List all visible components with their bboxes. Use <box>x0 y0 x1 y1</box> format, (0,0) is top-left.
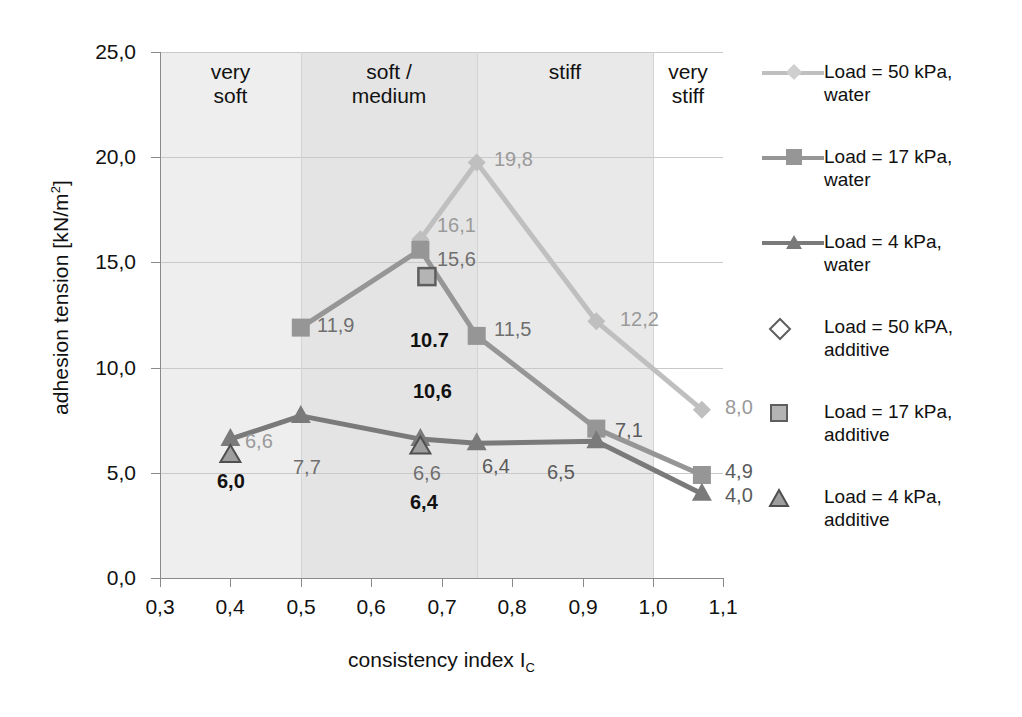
data-label-15-6: 15,6 <box>437 248 476 271</box>
y-tick-20 <box>151 157 160 158</box>
marker-square <box>411 241 429 259</box>
triangle-line-marker-icon <box>762 230 824 254</box>
data-label-6-0-additive: 6,0 <box>217 470 245 493</box>
legend-label: Load = 4 kPa, additive <box>824 485 942 531</box>
y-axis-title-text: adhesion tension [kN/m <box>49 193 72 415</box>
legend-item-17kpa-additive[interactable]: Load = 17 kPa, additive <box>762 400 1020 446</box>
square-line-marker-icon <box>762 145 824 169</box>
x-tick-label-1-1: 1,1 <box>693 595 753 619</box>
x-tick-0-3 <box>160 578 161 587</box>
y-tick-label-5: 5,0 <box>76 461 136 485</box>
diamond-line-marker-icon <box>762 60 824 84</box>
x-tick-label-0-5: 0,5 <box>271 595 331 619</box>
x-tick-label-0-9: 0,9 <box>553 595 613 619</box>
band-caption-line1: stiff <box>477 60 653 84</box>
band-caption-line2: medium <box>301 84 477 108</box>
marker-square <box>468 327 486 345</box>
data-label-6-4: 6,4 <box>482 455 510 478</box>
diamond-open-marker-icon <box>762 315 824 339</box>
legend-label: Load = 17 kPa, additive <box>824 400 952 446</box>
legend-item-50kpa-water[interactable]: Load = 50 kPa, water <box>762 60 1020 106</box>
legend-label: Load = 50 kPa, water <box>824 60 952 106</box>
marker-square-additive-17kpa <box>418 268 435 285</box>
y-tick-15 <box>151 262 160 263</box>
square-icon <box>784 147 804 167</box>
data-label-7-7: 7,7 <box>293 456 321 479</box>
y-tick-label-10: 10,0 <box>76 356 136 380</box>
data-label-12-2: 12,2 <box>620 308 659 331</box>
y-axis-title: adhesion tension [kN/m2] <box>48 108 73 488</box>
data-label-10-7: 10.7 <box>410 329 449 352</box>
data-label-19-8: 19,8 <box>494 148 533 171</box>
data-label-4-0: 4,0 <box>725 484 753 507</box>
band-caption-line1: very <box>160 60 301 84</box>
triangle-icon <box>784 232 804 252</box>
legend-item-17kpa-water[interactable]: Load = 17 kPa, water <box>762 145 1020 191</box>
x-axis-title-subscript: C <box>526 660 535 675</box>
x-tick-0-8 <box>512 578 513 587</box>
band-caption-line2: soft <box>160 84 301 108</box>
data-label-6-4-additive: 6,4 <box>410 491 438 514</box>
marker-triangle <box>291 405 311 423</box>
x-tick-label-1-0: 1,0 <box>623 595 683 619</box>
band-caption-line2: stiff <box>653 84 723 108</box>
y-tick-label-15: 15,0 <box>76 250 136 274</box>
data-label-4-9: 4,9 <box>725 460 753 483</box>
x-tick-label-0-4: 0,4 <box>200 595 260 619</box>
x-tick-1-1 <box>723 578 724 587</box>
x-tick-0-4 <box>230 578 231 587</box>
y-axis-line <box>160 52 161 579</box>
x-tick-label-0-7: 0,7 <box>412 595 472 619</box>
series-line-50kpa-water <box>420 163 702 410</box>
band-caption-line1: soft / <box>301 60 477 84</box>
diamond-outline-icon <box>768 317 792 341</box>
x-tick-label-0-6: 0,6 <box>341 595 401 619</box>
x-tick-0-6 <box>371 578 372 587</box>
x-axis-title: consistency index IC <box>160 648 723 675</box>
x-axis-title-text: consistency index I <box>348 648 525 671</box>
x-tick-label-0-8: 0,8 <box>482 595 542 619</box>
band-caption-line1: very <box>653 60 723 84</box>
data-label-7-1: 7,1 <box>615 419 643 442</box>
square-open-marker-icon <box>762 400 824 424</box>
triangle-open-marker-icon <box>762 485 824 509</box>
x-tick-0-5 <box>301 578 302 587</box>
legend-item-4kpa-additive[interactable]: Load = 4 kPa, additive <box>762 485 1020 531</box>
y-tick-5 <box>151 473 160 474</box>
y-tick-label-0: 0,0 <box>76 566 136 590</box>
marker-square <box>693 466 711 484</box>
diamond-icon <box>784 62 804 82</box>
legend-label: Load = 17 kPa, water <box>824 145 952 191</box>
x-tick-0-7 <box>442 578 443 587</box>
band-caption-stiff: stiff <box>477 60 653 84</box>
square-outline-icon <box>768 402 790 424</box>
legend-label: Load = 50 kPA, additive <box>824 315 953 361</box>
band-caption-very-soft: very soft <box>160 60 301 107</box>
y-tick-10 <box>151 368 160 369</box>
data-label-6-6-a: 6,6 <box>245 430 273 453</box>
band-caption-soft-medium: soft / medium <box>301 60 477 107</box>
x-tick-0-9 <box>583 578 584 587</box>
band-caption-very-stiff: very stiff <box>653 60 723 107</box>
data-label-16-1: 16,1 <box>437 214 476 237</box>
y-tick-0 <box>151 578 160 579</box>
x-tick-label-0-3: 0,3 <box>130 595 190 619</box>
legend-item-50kpa-additive[interactable]: Load = 50 kPA, additive <box>762 315 1020 361</box>
data-label-6-6-b: 6,6 <box>413 462 441 485</box>
triangle-outline-icon <box>768 487 790 509</box>
data-label-6-5: 6,5 <box>547 461 575 484</box>
marker-square <box>292 319 310 337</box>
y-tick-label-25: 25,0 <box>76 40 136 64</box>
data-label-8-0: 8,0 <box>725 396 753 419</box>
y-axis-title-exponent: 2 <box>48 186 63 193</box>
y-axis-title-tail: ] <box>49 180 72 186</box>
data-label-10-6: 10,6 <box>413 380 452 403</box>
marker-triangle-additive-4kpa <box>220 445 240 462</box>
x-tick-1-0 <box>653 578 654 587</box>
chart-root: adhesion tension [kN/m2] consistency ind… <box>0 0 1022 717</box>
y-tick-label-20: 20,0 <box>76 145 136 169</box>
legend-item-4kpa-water[interactable]: Load = 4 kPa, water <box>762 230 1020 276</box>
y-tick-25 <box>151 52 160 53</box>
data-label-11-9: 11,9 <box>317 314 354 337</box>
legend-label: Load = 4 kPa, water <box>824 230 942 276</box>
